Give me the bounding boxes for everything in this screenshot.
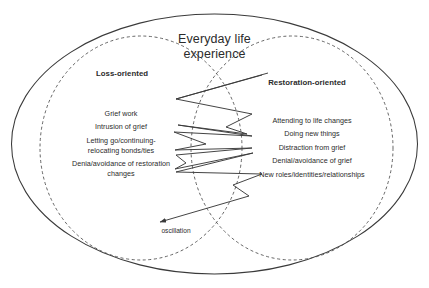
diagram-canvas (0, 0, 429, 288)
restoration-oriented-region (191, 36, 393, 260)
oscillation-arrow (160, 196, 249, 222)
dual-process-model-diagram: Everyday life experience Loss-oriented R… (0, 0, 429, 288)
restoration-connector-line (176, 73, 268, 99)
loss-oriented-region (40, 36, 242, 260)
oscillation-zigzag (174, 75, 262, 196)
everyday-life-experience-boundary (12, 14, 418, 274)
